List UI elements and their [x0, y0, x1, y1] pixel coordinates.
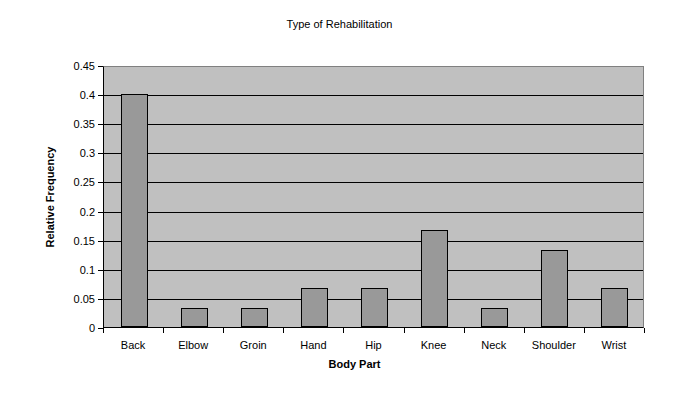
y-tick-label: 0: [55, 322, 95, 334]
x-axis-title: Body Part: [0, 358, 679, 370]
gridline: [104, 241, 643, 242]
x-tick: [464, 328, 465, 333]
bar-wrist: [601, 288, 628, 327]
x-tick-label: Wrist: [579, 339, 649, 351]
bar-neck: [481, 308, 508, 327]
x-tick: [343, 328, 344, 333]
bar-hand: [301, 288, 328, 327]
x-tick: [103, 328, 104, 333]
x-tick: [163, 328, 164, 333]
y-tick-label: 0.1: [55, 264, 95, 276]
bar-hip: [361, 288, 388, 327]
gridline: [104, 95, 643, 96]
x-tick: [223, 328, 224, 333]
y-tick-label: 0.05: [55, 293, 95, 305]
x-tick: [283, 328, 284, 333]
x-tick: [644, 328, 645, 333]
bar-shoulder: [541, 250, 568, 327]
bar-back: [121, 94, 148, 327]
gridline: [104, 124, 643, 125]
y-tick-label: 0.35: [55, 118, 95, 130]
bar-knee: [421, 230, 448, 327]
y-tick-label: 0.25: [55, 176, 95, 188]
x-tick: [404, 328, 405, 333]
gridline: [104, 182, 643, 183]
y-tick-label: 0.45: [55, 60, 95, 72]
y-tick-label: 0.4: [55, 89, 95, 101]
gridline: [104, 153, 643, 154]
bar-groin: [241, 308, 268, 327]
chart-title: Type of Rehabilitation: [0, 18, 679, 30]
y-axis-title: Relative Frequency: [44, 147, 56, 248]
plot-area: [103, 66, 644, 328]
y-tick-label: 0.15: [55, 235, 95, 247]
y-tick-label: 0.3: [55, 147, 95, 159]
bar-elbow: [181, 308, 208, 327]
x-tick: [524, 328, 525, 333]
y-tick-label: 0.2: [55, 206, 95, 218]
x-tick: [584, 328, 585, 333]
gridline: [104, 212, 643, 213]
